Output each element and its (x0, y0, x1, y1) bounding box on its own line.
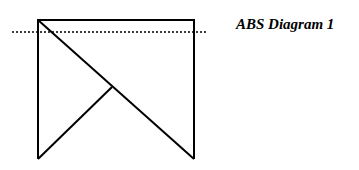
diagonal-line (38, 20, 194, 159)
diagram-title: ABS Diagram 1 (236, 16, 334, 33)
inner-branch-line (38, 87, 112, 159)
